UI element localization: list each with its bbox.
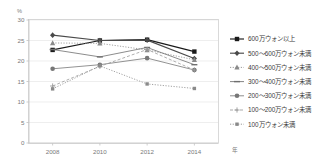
series-line — [53, 50, 195, 86]
data-point-marker — [234, 107, 239, 112]
data-point-marker — [51, 87, 54, 90]
data-point-marker — [234, 50, 239, 56]
legend-item[interactable]: 400〜500万ウォン未満 — [230, 63, 312, 72]
line-chart: % 年 051015202530 2008201020122014 600万ウォ… — [0, 0, 322, 163]
legend-item[interactable]: 200〜300万ウォン未満 — [230, 91, 312, 100]
series-line — [53, 58, 195, 70]
x-axis-tick-label: 2008 — [46, 148, 60, 155]
legend-item-label: 300〜400万ウォン未満 — [248, 77, 312, 86]
x-axis-tick-label: 2010 — [93, 148, 107, 155]
legend-item-label: 400〜500万ウォン未満 — [248, 63, 312, 72]
y-axis-tick-label: 20 — [18, 57, 25, 64]
data-point-marker — [235, 123, 238, 126]
legend-item-label: 200〜300万ウォン未満 — [248, 91, 312, 100]
data-point-marker — [98, 64, 101, 67]
data-series-layer — [50, 32, 198, 90]
data-point-marker — [192, 49, 196, 53]
legend-item[interactable]: 500〜600万ウォン未満 — [230, 49, 312, 58]
data-point-marker — [50, 32, 55, 38]
data-point-marker — [50, 66, 55, 71]
y-axis-tick-label: 10 — [18, 98, 25, 105]
x-axis-tick-label: 2012 — [140, 148, 154, 155]
y-axis-tick-label: 25 — [18, 37, 25, 44]
y-axis-tick-labels: 051015202530 — [18, 16, 25, 146]
data-point-marker — [193, 87, 196, 90]
legend-item-label: 100万ウォン未満 — [248, 120, 296, 129]
data-point-marker — [192, 67, 197, 72]
gridlines — [29, 20, 218, 143]
legend-item[interactable]: 600万ウォン以上 — [230, 34, 296, 43]
x-axis-unit-label: 年 — [232, 146, 238, 154]
data-point-marker — [145, 82, 148, 85]
data-point-marker — [235, 94, 240, 99]
data-point-marker — [235, 37, 239, 41]
data-point-marker — [50, 40, 55, 45]
y-axis-tick-label: 30 — [18, 16, 25, 23]
chart-canvas: % 年 051015202530 2008201020122014 600万ウォ… — [0, 0, 322, 163]
data-point-marker — [145, 56, 150, 61]
y-axis-tick-label: 5 — [21, 119, 25, 126]
x-axis-tick-label: 2014 — [187, 148, 201, 155]
y-axis-tick-label: 0 — [21, 139, 25, 146]
chart-legend: 600万ウォン以上500〜600万ウォン未満400〜500万ウォン未満300〜4… — [230, 34, 312, 128]
legend-item-label: 100〜200万ウォン未満 — [248, 105, 312, 114]
legend-item[interactable]: 100〜200万ウォン未満 — [230, 105, 312, 114]
legend-item-label: 500〜600万ウォン未満 — [248, 49, 312, 58]
legend-item[interactable]: 300〜400万ウォン未満 — [230, 77, 312, 86]
x-axis-tick-labels: 2008201020122014 — [46, 148, 202, 155]
y-axis-tick-label: 15 — [18, 78, 25, 85]
legend-item-label: 600万ウォン以上 — [248, 34, 296, 43]
legend-item[interactable]: 100万ウォン未満 — [230, 120, 296, 129]
y-axis-unit-label: % — [17, 8, 22, 14]
data-series — [50, 47, 197, 89]
